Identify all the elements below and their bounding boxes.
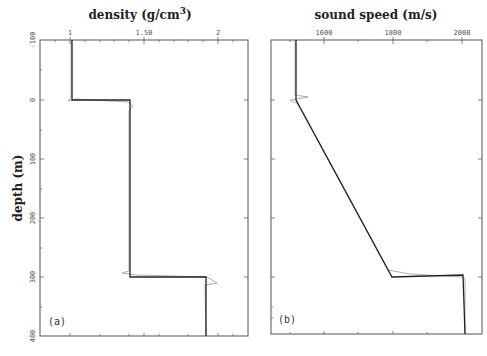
panel-a-xtick-1-50: 1.50 xyxy=(136,29,153,37)
ytick-0: 0 xyxy=(29,98,37,102)
panel-b-frame xyxy=(271,40,482,334)
panel-a-true-model xyxy=(72,40,206,336)
panel-b-label: (b) xyxy=(278,314,296,325)
panel-b-yticks xyxy=(271,100,482,318)
panel-b-title: sound speed (m/s) xyxy=(315,8,438,22)
panel-a-title: density (g/cm3) xyxy=(88,6,191,22)
panel-b-xtick-2000: 2000 xyxy=(454,29,471,37)
figure-canvas: density (g/cm3) 1 1.50 2 xyxy=(0,0,487,356)
ytick-100: 100 xyxy=(29,153,37,166)
ytick-neg100: -100 xyxy=(29,32,37,49)
panel-b: sound speed (m/s) 1600 1800 2000 (b) xyxy=(271,8,482,334)
ytick-300: 300 xyxy=(29,271,37,284)
panel-b-true-model xyxy=(296,40,465,334)
y-axis: -100 0 100 200 300 400 depth (m) xyxy=(11,32,37,343)
panel-a-label: (a) xyxy=(48,316,66,327)
ytick-400: 400 xyxy=(29,330,37,343)
panel-b-xtick-1800: 1800 xyxy=(385,29,402,37)
panel-a: density (g/cm3) 1 1.50 2 xyxy=(40,6,248,336)
y-axis-label: depth (m) xyxy=(11,155,25,222)
panel-b-xticks xyxy=(290,37,462,334)
panel-a-inverted-profile xyxy=(68,40,217,336)
panel-b-xtick-1600: 1600 xyxy=(316,29,333,37)
panel-b-inverted-profile xyxy=(290,40,465,334)
panel-a-xtick-2: 2 xyxy=(216,29,220,37)
panel-a-xtick-1: 1 xyxy=(68,29,72,37)
panel-a-yticks xyxy=(40,70,248,307)
ytick-200: 200 xyxy=(29,212,37,225)
